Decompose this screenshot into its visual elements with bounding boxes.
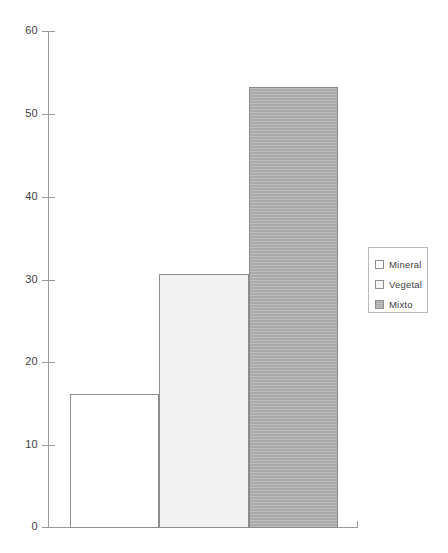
legend-swatch-icon <box>375 300 384 309</box>
y-tick-label: 60 <box>8 24 38 36</box>
y-tick-mark <box>42 31 55 32</box>
y-tick-label: 10 <box>8 438 38 450</box>
bar-mixto <box>249 87 338 528</box>
y-tick-label: 30 <box>8 273 38 285</box>
legend-item-mixto: Mixto <box>375 295 427 313</box>
y-tick-mark <box>42 280 55 281</box>
bar-chart: 60 50 40 30 20 10 0 Mineral <box>0 0 448 553</box>
legend-item-vegetal: Vegetal <box>375 275 427 293</box>
legend-swatch-icon <box>375 280 384 289</box>
legend: Mineral Vegetal Mixto <box>368 247 428 313</box>
y-axis-line <box>48 31 49 527</box>
y-tick-label: 50 <box>8 107 38 119</box>
legend-swatch-icon <box>375 260 384 269</box>
x-axis-end-tick <box>357 521 358 528</box>
bar-mineral <box>70 394 159 528</box>
y-tick-label: 20 <box>8 355 38 367</box>
y-tick-label: 0 <box>8 520 38 532</box>
bar-vegetal <box>159 274 249 528</box>
y-tick-mark <box>42 197 55 198</box>
y-tick-mark <box>42 527 55 528</box>
y-tick-mark <box>42 362 55 363</box>
y-tick-label: 40 <box>8 190 38 202</box>
y-tick-mark <box>42 445 55 446</box>
legend-label: Vegetal <box>389 279 422 290</box>
legend-label: Mineral <box>389 259 422 270</box>
y-tick-mark <box>42 114 55 115</box>
legend-label: Mixto <box>389 299 413 310</box>
legend-item-mineral: Mineral <box>375 255 427 273</box>
